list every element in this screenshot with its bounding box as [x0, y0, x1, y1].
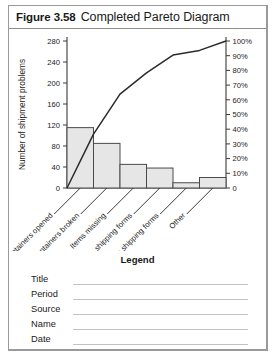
legend-field-label: Source [31, 304, 73, 315]
legend-heading: Legend [9, 254, 266, 265]
y-tick-label-right: 90% [233, 52, 248, 61]
y-tick-label-right: 20% [233, 154, 248, 163]
legend-row: Period [31, 285, 248, 300]
legend-block: Legend TitlePeriodSourceNameDate [9, 254, 266, 345]
category-leader [187, 188, 213, 214]
legend-field-label: Name [31, 319, 73, 330]
bar-3[interactable] [147, 168, 174, 188]
legend-field-input[interactable] [73, 319, 248, 330]
y-axis-title: Number of shipment problems [17, 59, 27, 170]
y-tick-label-left: 200 [47, 79, 60, 88]
legend-field-input[interactable] [73, 334, 248, 345]
y-tick-label-right: 60% [233, 96, 248, 105]
legend-row: Date [31, 330, 248, 345]
bar-5[interactable] [200, 178, 227, 189]
y-tick-label-right: 70% [233, 81, 248, 90]
category-leader [160, 188, 186, 214]
figure-title-bar: Figure 3.58 Completed Pareto Diagram [9, 6, 266, 29]
y-tick-label-left: 40 [52, 163, 60, 172]
legend-row: Name [31, 315, 248, 330]
legend-fields: TitlePeriodSourceNameDate [9, 270, 266, 345]
figure-page: Figure 3.58 Completed Pareto Diagram 040… [0, 0, 274, 357]
figure-number: Figure 3.58 [16, 11, 76, 23]
legend-field-input[interactable] [73, 289, 248, 300]
y-tick-label-left: 280 [47, 37, 60, 46]
legend-field-label: Date [31, 334, 73, 345]
bar-4[interactable] [173, 183, 200, 188]
category-leader [134, 188, 160, 214]
legend-row: Source [31, 300, 248, 315]
y-tick-label-right: 0 [233, 184, 237, 193]
legend-field-input[interactable] [73, 304, 248, 315]
y-tick-label-right: 100% [233, 37, 253, 46]
category-leader [107, 188, 133, 214]
legend-field-label: Title [31, 274, 73, 285]
y-tick-label-right: 50% [233, 110, 248, 119]
pareto-chart-svg: 04080120160200240280010%20%30%40%50%60%7… [9, 29, 271, 251]
y-tick-label-right: 10% [233, 169, 248, 178]
bar-2[interactable] [120, 164, 147, 188]
y-tick-label-left: 240 [47, 58, 60, 67]
y-tick-label-left: 0 [56, 184, 60, 193]
y-tick-label-left: 80 [52, 142, 60, 151]
category-leader [81, 188, 107, 214]
category-label-5: Other [167, 211, 187, 231]
y-tick-label-right: 80% [233, 66, 248, 75]
bar-1[interactable] [94, 143, 121, 188]
y-tick-label-left: 160 [47, 100, 60, 109]
y-tick-label-right: 30% [233, 140, 248, 149]
figure-title: Completed Pareto Diagram [81, 10, 230, 24]
legend-row: Title [31, 270, 248, 285]
legend-field-label: Period [31, 289, 73, 300]
legend-field-input[interactable] [73, 274, 248, 285]
figure-card: Figure 3.58 Completed Pareto Diagram 040… [8, 5, 268, 351]
y-tick-label-right: 40% [233, 125, 248, 134]
pareto-chart: 04080120160200240280010%20%30%40%50%60%7… [9, 29, 269, 251]
y-tick-label-left: 120 [47, 121, 60, 130]
